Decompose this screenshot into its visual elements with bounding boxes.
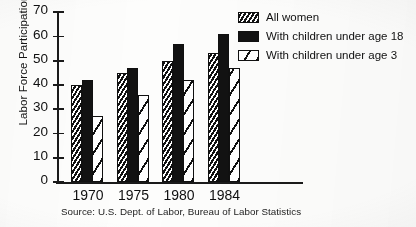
x-axis-tick-label: 1984 (202, 187, 248, 203)
legend-label: With children under age 18 (266, 30, 403, 43)
y-axis-tick: 60 (53, 36, 64, 38)
legend-swatch (238, 50, 259, 62)
bar (208, 53, 219, 182)
bar-group (117, 12, 150, 182)
legend-label: All women (266, 11, 319, 24)
y-axis-tick: 10 (53, 157, 64, 159)
bar (173, 44, 184, 182)
legend-item: With children under age 18 (238, 30, 403, 43)
y-axis-tick: 30 (53, 108, 64, 110)
bar (138, 95, 149, 182)
y-axis-tick-label: 60 (22, 27, 48, 43)
x-axis-tick-label: 1980 (156, 187, 202, 203)
bar (127, 68, 138, 182)
y-axis-tick: 20 (53, 133, 64, 135)
source-note: Source: U.S. Dept. of Labor, Bureau of L… (61, 206, 301, 217)
bar (117, 73, 128, 182)
bar-group (208, 12, 241, 182)
bar (162, 61, 173, 182)
y-axis-tick: 0 (53, 181, 64, 183)
bar-group (71, 12, 104, 182)
bar-group (162, 12, 195, 182)
chart-figure: Labor Force Participation Rate 010203040… (0, 0, 416, 227)
y-axis-tick-label: 0 (22, 172, 48, 188)
bar (218, 34, 229, 182)
legend-item: All women (238, 11, 403, 24)
bar (71, 85, 82, 182)
y-axis-tick: 50 (53, 60, 64, 62)
legend-item: With children under age 3 (238, 49, 403, 62)
y-axis-title: Labor Force Participation Rate (17, 0, 29, 141)
y-axis-tick-label: 30 (22, 99, 48, 115)
legend-label: With children under age 3 (266, 49, 397, 62)
y-axis-tick-label: 70 (22, 2, 48, 18)
chart-legend: All womenWith children under age 18With … (238, 11, 403, 62)
bar (82, 80, 93, 182)
y-axis-tick: 40 (53, 84, 64, 86)
y-axis-tick-label: 50 (22, 51, 48, 67)
legend-swatch (238, 31, 259, 43)
x-axis-tick-label: 1970 (65, 187, 111, 203)
bar (183, 80, 194, 182)
y-axis-tick-label: 10 (22, 148, 48, 164)
legend-swatch (238, 12, 259, 24)
y-axis-tick-label: 20 (22, 124, 48, 140)
bar (229, 68, 240, 182)
x-axis-line (56, 182, 303, 184)
bar (92, 116, 103, 182)
y-axis-tick-label: 40 (22, 75, 48, 91)
y-axis-tick: 70 (53, 11, 64, 13)
x-axis-tick-label: 1975 (111, 187, 157, 203)
